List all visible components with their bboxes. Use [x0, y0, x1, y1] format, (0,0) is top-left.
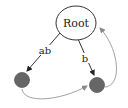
- graph-diagram: Root ab b: [0, 0, 128, 108]
- edge-label-b: b: [82, 53, 88, 64]
- edge-right-to-root: [100, 28, 116, 87]
- node-root[interactable]: Root: [56, 6, 96, 40]
- node-left[interactable]: [15, 73, 30, 88]
- edge-label-ab: ab: [39, 45, 51, 56]
- edge-left-to-right: [22, 86, 87, 99]
- node-right[interactable]: [90, 78, 105, 93]
- node-root-label: Root: [63, 17, 90, 30]
